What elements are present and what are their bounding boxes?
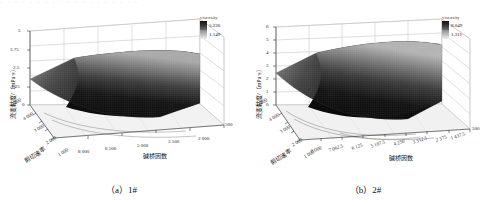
y-tick-a-1: 6 500 — [105, 146, 116, 151]
colorbar-min-value-a: 1.149 — [209, 32, 220, 37]
z-tick-b-2: 4 — [266, 50, 269, 55]
surface-plot-b: 6 5 4 3 2 1 0 5 000 4 000 3 000 2 000 1 … — [244, 7, 487, 157]
colorbar-max-row-b: 8.049 — [442, 21, 462, 30]
y-tick-b-8: 500 — [472, 126, 480, 131]
y-tick-a-5: 500 — [225, 122, 233, 127]
colorbar-legend-a: viscosity 5.226 1.149 — [200, 15, 220, 39]
colorbar-swatch-low-b — [442, 30, 449, 39]
colorbar-swatch-high-a — [200, 21, 207, 30]
colorbar-max-value-b: 8.049 — [451, 23, 462, 28]
z-axis-title-b: 流变黏度/（mPa·s） — [254, 66, 263, 119]
figure-root: · · · · · · · · · · · · · · · · · · · — [0, 0, 487, 206]
colorbar-min-row-a: 1.149 — [200, 30, 220, 39]
z-tick-b-5: 1 — [266, 89, 269, 94]
z-axis-a — [27, 31, 30, 105]
y-tick-a-2: 5 000 — [137, 143, 148, 148]
panel-caption-a: （a）1# — [0, 183, 243, 196]
z-tick-b-1: 5 — [266, 37, 269, 42]
cut-off-text-strip: · · · · · · · · · · · · · · · · · · · — [0, 0, 487, 7]
z-tick-b-3: 3 — [266, 63, 269, 68]
colorbar-min-row-b: 1.311 — [442, 30, 462, 39]
z-tick-b-0: 6 — [266, 24, 269, 29]
y-tick-a-3: 3 500 — [168, 139, 179, 144]
z-tick-a-4: 0 — [22, 102, 25, 107]
colorbar-title-a: viscosity — [200, 15, 220, 20]
colorbar-title-b: viscosity — [442, 15, 462, 20]
z-axis-b — [273, 27, 276, 105]
colorbar-swatch-low-a — [200, 30, 207, 39]
panel-caption-b: （b）2# — [244, 183, 487, 196]
surface-plot-a: 5 3.75 2.5 1.25 0 5 000 4 000 3 000 2 00… — [0, 7, 243, 157]
panel-a: 5 3.75 2.5 1.25 0 5 000 4 000 3 000 2 00… — [0, 7, 243, 179]
z-tick-a-1: 3.75 — [10, 47, 19, 52]
colorbar-legend-b: viscosity 8.049 1.311 — [442, 15, 462, 39]
y-axis-title-b: 碱桥因数 — [389, 153, 413, 162]
z-axis-title-a: 流变黏度/（mPa·s） — [8, 66, 17, 119]
colorbar-min-value-b: 1.311 — [451, 32, 462, 37]
panel-b: 6 5 4 3 2 1 0 5 000 4 000 3 000 2 000 1 … — [244, 7, 487, 179]
y-axis-title-a: 碱桥因数 — [143, 151, 167, 160]
colorbar-max-row-a: 5.226 — [200, 21, 220, 30]
colorbar-swatch-high-b — [442, 21, 449, 30]
z-tick-b-4: 2 — [266, 76, 269, 81]
y-tick-a-4: 2 000 — [198, 136, 209, 141]
colorbar-max-value-a: 5.226 — [209, 23, 220, 28]
y-tick-a-0: 8 000 — [78, 149, 89, 154]
z-tick-a-0: 5 — [18, 28, 21, 33]
